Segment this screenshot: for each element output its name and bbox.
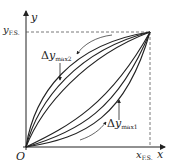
- origin-label: O: [16, 151, 25, 162]
- dy-max1-label: Δymax1: [107, 118, 138, 130]
- ascend-direction-arrow: [80, 122, 106, 140]
- y-axis-label: y: [31, 12, 37, 23]
- dy-max2-label: Δymax2: [41, 50, 72, 62]
- dy-max1-sub: max1: [121, 123, 137, 130]
- x-fs-label: xF.S.: [136, 150, 153, 161]
- x-axis-label: x: [157, 149, 163, 160]
- dy-max2-sub: max2: [55, 55, 71, 62]
- hysteresis-diagram: [0, 0, 181, 167]
- y-fs-sub: F.S.: [9, 29, 20, 36]
- x-fs-sub: F.S.: [142, 154, 153, 161]
- return-direction-arrow: [77, 35, 112, 54]
- dy-max2-delta: Δ: [41, 49, 49, 62]
- dy-max1-delta: Δ: [107, 117, 115, 130]
- y-fs-label: yF.S.: [3, 25, 20, 36]
